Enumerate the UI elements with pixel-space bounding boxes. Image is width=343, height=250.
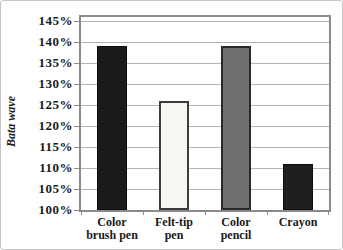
y-axis-tick-label-140: 140% [21,34,73,50]
bar-crayon [283,164,313,210]
x-axis-tick-mark-2 [205,212,206,215]
x-axis-tick-mark-3 [267,212,268,215]
x-axis-tick-mark-4 [328,212,329,215]
y-axis-tick-label-105: 105% [21,181,73,197]
y-axis-tick-mark-145 [74,21,79,22]
y-axis-tick-mark-105 [74,189,79,190]
x-axis-label-crayon: Crayon [267,216,329,229]
y-axis-tick-label-125: 125% [21,97,73,113]
y-axis-tick-label-130: 130% [21,76,73,92]
y-axis-tick-mark-110 [74,168,79,169]
y-axis-tick-label-115: 115% [21,139,73,155]
bar-color-brush-pen [97,46,127,210]
bar-chart-figure: Bata wave 100%105%110%115%120%125%130%13… [0,0,343,250]
gridline-145 [81,21,329,22]
y-axis-tick-mark-130 [74,84,79,85]
y-axis-tick-label-100: 100% [21,202,73,218]
x-axis-tick-mark-1 [143,212,144,215]
y-axis-tick-label-145: 145% [21,13,73,29]
x-axis-label-color-brush-pen: Colorbrush pen [81,216,143,242]
y-axis-tick-mark-125 [74,105,79,106]
bar-color-pencil [221,46,251,210]
x-axis-label-color-pencil: Colorpencil [205,216,267,242]
y-axis-title: Bata wave [3,71,19,171]
x-axis-label-felt-tip-pen: Felt-tippen [143,216,205,242]
y-axis-tick-mark-120 [74,126,79,127]
y-axis-tick-mark-115 [74,147,79,148]
y-axis-tick-mark-135 [74,63,79,64]
y-axis-tick-label-135: 135% [21,55,73,71]
y-axis-tick-label-110: 110% [21,160,73,176]
bar-felt-tip-pen [159,101,189,210]
gridline-140 [81,42,329,43]
y-axis-tick-mark-100 [74,210,79,211]
x-axis-tick-mark-0 [81,212,82,215]
y-axis-tick-mark-140 [74,42,79,43]
y-axis-tick-label-120: 120% [21,118,73,134]
plot-area [79,15,331,212]
y-axis-title-text: Bata wave [4,96,19,147]
